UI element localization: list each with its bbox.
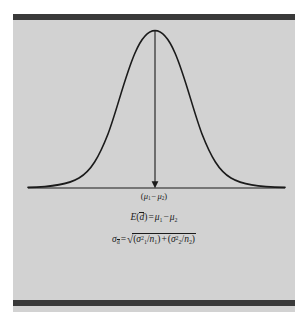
figure-page: (μ1−μ2) E(d)=μ1−μ2 σd=√(σ21/n1)+(σ22/n2) bbox=[0, 0, 308, 326]
mean-pointer-arrowhead bbox=[152, 181, 159, 188]
gaussian-curve bbox=[28, 31, 285, 188]
distribution-plot bbox=[13, 14, 295, 312]
